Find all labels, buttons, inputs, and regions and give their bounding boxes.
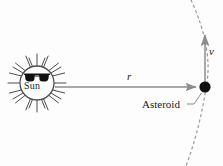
asteroid-orbit-diagram: Sun r v Asteroid bbox=[0, 0, 223, 166]
asteroid-dot bbox=[199, 81, 210, 92]
asteroid-label: Asteroid bbox=[142, 98, 180, 110]
sun-label: Sun bbox=[24, 80, 40, 91]
radius-label: r bbox=[127, 70, 131, 82]
velocity-label: v bbox=[209, 45, 214, 57]
asteroid-leader-line bbox=[187, 93, 202, 104]
